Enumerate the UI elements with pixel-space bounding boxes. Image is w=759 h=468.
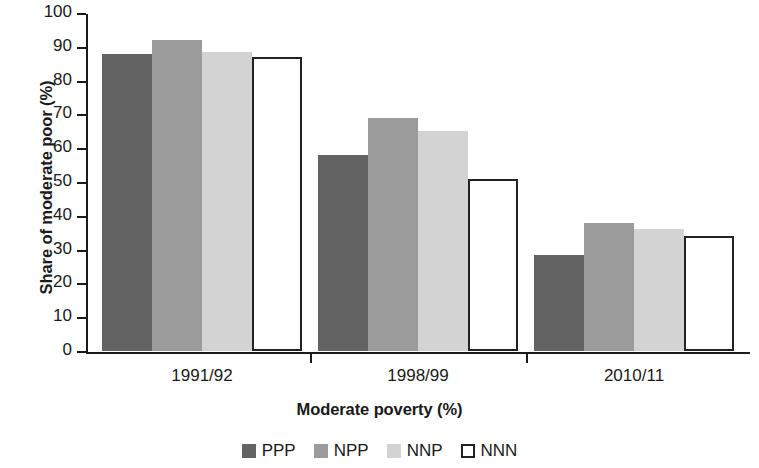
y-tick: 0 [77,351,86,353]
y-tick: 20 [77,283,86,285]
y-tick: 70 [77,114,86,116]
x-tick [526,352,528,363]
plot-area: 0102030405060708090100 1991/921998/99201… [86,14,750,353]
bar-nnp-2010-11 [634,229,684,351]
bar-ppp-2010-11 [534,255,584,351]
legend-item-ppp[interactable]: PPP [242,442,296,459]
bar-nnn-2010-11 [684,236,734,351]
bar-nnn-1998-99 [468,179,518,351]
x-axis-line [86,352,750,354]
x-axis-title: Moderate poverty (%) [0,400,759,419]
y-axis-line [86,14,88,354]
bar-group [534,13,734,351]
y-tick-label: 100 [44,2,72,22]
y-tick: 30 [77,250,86,252]
y-tick: 50 [77,182,86,184]
x-tick [310,352,312,363]
y-tick: 80 [77,81,86,83]
bar-ppp-1998-99 [318,155,368,351]
y-tick-label: 10 [53,306,72,326]
y-tick: 100 [77,13,86,15]
legend-swatch-icon [242,444,256,458]
bar-chart: Share of moderate poor (%) 0102030405060… [0,0,759,468]
y-tick-label: 20 [53,272,72,292]
legend-label: PPP [262,442,296,459]
bar-ppp-1991-92 [102,54,152,351]
bar-nnp-1991-92 [202,52,252,351]
legend-item-npp[interactable]: NPP [314,442,369,459]
legend-swatch-icon [461,444,475,458]
legend-label: NPP [334,442,369,459]
y-tick-label: 50 [53,171,72,191]
y-tick: 90 [77,47,86,49]
legend-item-nnn[interactable]: NNN [461,442,518,459]
bar-nnp-1998-99 [418,131,468,351]
bar-group [318,13,518,351]
legend-label: NNN [481,442,518,459]
bar-nnn-1991-92 [252,57,302,351]
bar-npp-1991-92 [152,40,202,351]
legend-label: NNP [407,442,443,459]
legend-swatch-icon [387,444,401,458]
legend-swatch-icon [314,444,328,458]
y-tick-label: 0 [63,340,72,360]
y-tick: 60 [77,148,86,150]
chart-legend: PPPNPPNNPNNN [0,442,759,459]
bar-npp-1998-99 [368,118,418,351]
y-tick: 10 [77,317,86,319]
y-tick-label: 90 [53,36,72,56]
y-tick-label: 60 [53,137,72,157]
y-tick: 40 [77,216,86,218]
bar-npp-2010-11 [584,223,634,351]
legend-item-nnp[interactable]: NNP [387,442,443,459]
y-tick-label: 80 [53,70,72,90]
x-tick-label: 2010/11 [534,366,734,386]
x-tick-label: 1991/92 [102,366,302,386]
bar-group [102,13,302,351]
x-tick-label: 1998/99 [318,366,518,386]
y-tick-label: 30 [53,239,72,259]
y-tick-label: 40 [53,205,72,225]
y-tick-label: 70 [53,103,72,123]
